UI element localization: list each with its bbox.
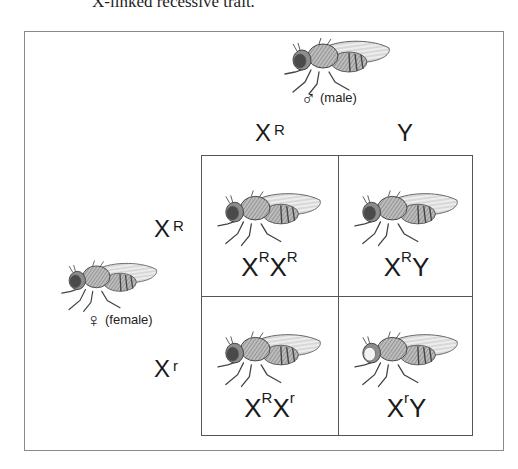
diagram-caption: X-linked recessive trait. <box>92 0 255 12</box>
fly-eye <box>364 206 376 220</box>
male-gamete-2: Y <box>397 120 416 146</box>
male-eye <box>294 54 306 68</box>
fly-eye <box>227 206 239 220</box>
female-gamete-1: XR <box>154 216 184 242</box>
offspring-genotype: XRXr <box>202 393 337 423</box>
female-label: ♀(female) <box>86 309 153 332</box>
male-label-text: (male) <box>320 90 357 105</box>
fly-eye <box>227 347 239 361</box>
punnett-square: XRXR XRY XRXr XrY <box>201 155 473 436</box>
male-symbol-icon: ♂ <box>301 87 316 109</box>
male-label: ♂(male) <box>301 87 357 110</box>
offspring-cell: XRY <box>339 156 474 296</box>
offspring-fly <box>353 327 461 389</box>
offspring-cell: XRXR <box>202 156 337 296</box>
male-gamete-1: XR <box>255 120 285 146</box>
offspring-fly <box>216 186 324 248</box>
offspring-fly <box>353 186 461 248</box>
female-eye <box>70 275 81 288</box>
female-parent-fly <box>60 256 160 314</box>
offspring-cell: XRXr <box>202 297 337 437</box>
offspring-fly <box>216 327 324 389</box>
female-label-text: (female) <box>105 312 153 327</box>
female-gamete-2: Xr <box>154 356 178 382</box>
offspring-genotype: XRXR <box>202 252 337 282</box>
offspring-genotype: XRY <box>339 252 474 282</box>
offspring-genotype: XrY <box>339 393 474 423</box>
offspring-cell: XrY <box>339 297 474 437</box>
female-symbol-icon: ♀ <box>86 309 101 331</box>
fly-eye <box>364 347 376 361</box>
